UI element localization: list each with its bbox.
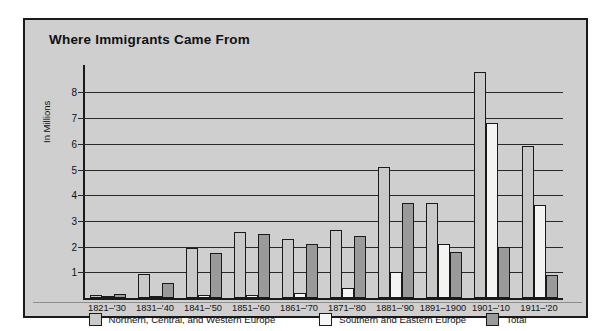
legend-label: Southern and Eastern Europe — [339, 314, 466, 325]
y-axis-label: In Millions — [41, 23, 52, 143]
legend-item: Southern and Eastern Europe — [319, 313, 466, 326]
legend-label: Total — [506, 314, 526, 325]
y-tick-label: 7 — [63, 118, 77, 119]
bar-ncw — [330, 230, 342, 298]
bar-ncw — [90, 295, 102, 298]
bar-group — [227, 65, 275, 298]
bar-tot — [402, 203, 414, 298]
bar-group — [467, 65, 515, 298]
chart-panel: Where Immigrants Came From In Millions 1… — [23, 18, 588, 318]
chart-screenshot: Where Immigrants Came From In Millions 1… — [0, 0, 611, 331]
bar-tot — [114, 294, 126, 298]
bar-se — [294, 293, 306, 298]
bar-tot — [258, 234, 270, 298]
bar-tot — [210, 253, 222, 298]
bar-group — [515, 65, 563, 298]
chart-title: Where Immigrants Came From — [49, 32, 250, 47]
bar-se — [150, 296, 162, 298]
bar-group — [179, 65, 227, 298]
bar-ncw — [522, 146, 534, 298]
bar-ncw — [138, 274, 150, 298]
bar-ncw — [282, 239, 294, 298]
bar-se — [390, 272, 402, 298]
bar-se — [438, 244, 450, 298]
bar-ncw — [234, 232, 246, 298]
bar-ncw — [426, 203, 438, 298]
bar-ncw — [474, 72, 486, 298]
bar-tot — [162, 283, 174, 298]
legend-item: Northern, Central, and Western Europe — [89, 313, 276, 326]
bar-ncw — [186, 248, 198, 298]
legend-swatch-icon — [486, 313, 499, 326]
legend-swatch-icon — [319, 313, 332, 326]
bar-se — [534, 205, 546, 298]
legend-divider — [33, 302, 582, 303]
bar-tot — [546, 275, 558, 298]
bar-se — [486, 123, 498, 298]
y-tick-label: 8 — [63, 92, 77, 93]
chart-legend: Northern, Central, and Western EuropeSou… — [25, 308, 590, 330]
y-tick-label: 3 — [63, 221, 77, 222]
bar-group — [323, 65, 371, 298]
y-tick-label: 4 — [63, 195, 77, 196]
y-tick-label: 6 — [63, 144, 77, 145]
legend-label: Northern, Central, and Western Europe — [109, 314, 276, 325]
y-tick-label: 5 — [63, 170, 77, 171]
bar-tot — [498, 247, 510, 298]
bar-se — [246, 295, 258, 298]
bar-groups — [83, 65, 563, 298]
bar-group — [419, 65, 467, 298]
legend-swatch-icon — [89, 313, 102, 326]
bar-se — [198, 295, 210, 298]
bar-tot — [306, 244, 318, 298]
bar-group — [83, 65, 131, 298]
bar-group — [131, 65, 179, 298]
bar-se — [102, 296, 114, 298]
bar-group — [275, 65, 323, 298]
legend-item: Total — [486, 313, 526, 326]
bar-se — [342, 288, 354, 298]
plot-area: In Millions 12345678 1821–'301831–'40184… — [83, 65, 563, 300]
x-axis-line — [83, 298, 563, 300]
bar-tot — [354, 236, 366, 298]
bar-ncw — [378, 167, 390, 298]
y-tick-label: 2 — [63, 247, 77, 248]
bar-group — [371, 65, 419, 298]
bar-tot — [450, 252, 462, 298]
y-tick-label: 1 — [63, 272, 77, 273]
